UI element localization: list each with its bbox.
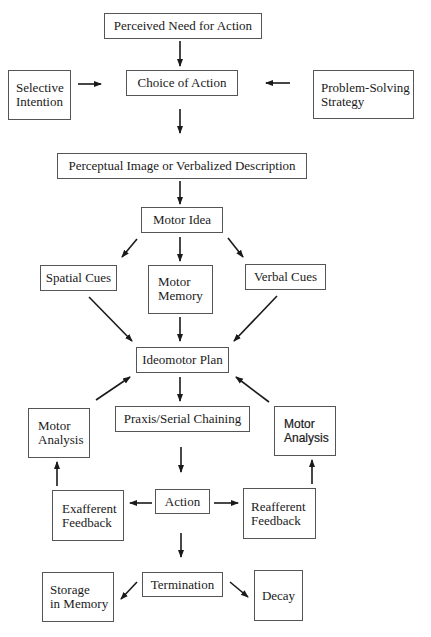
arrow-verbal-to-ideomotor: [234, 296, 277, 341]
node-label: Motor Analysis: [38, 419, 84, 447]
node-ideomotor-plan: Ideomotor Plan: [136, 347, 229, 373]
node-label: Problem-Solving Strategy: [321, 81, 410, 109]
node-choice-of-action: Choice of Action: [126, 70, 238, 96]
arrow-leftanalysis-to-ideomotor: [96, 377, 130, 400]
node-label: Spatial Cues: [46, 271, 111, 285]
node-label: Storage in Memory: [50, 583, 108, 611]
node-motor-analysis-left: Motor Analysis: [28, 408, 90, 458]
node-motor-memory: Motor Memory: [148, 265, 213, 314]
arrow-rightanalysis-to-ideomotor: [236, 377, 269, 402]
node-label: Motor Memory: [158, 275, 203, 303]
node-perceived-need: Perceived Need for Action: [104, 13, 262, 39]
node-label: Motor Analysis: [284, 417, 329, 445]
node-label: Perceived Need for Action: [114, 19, 252, 33]
node-label: Exafferent Feedback: [62, 502, 117, 530]
node-perceptual-image: Perceptual Image or Verbalized Descripti…: [57, 153, 307, 179]
node-praxis-serial-chaining: Praxis/Serial Chaining: [115, 406, 250, 432]
node-label: Praxis/Serial Chaining: [124, 412, 241, 426]
node-action: Action: [155, 489, 210, 514]
arrow-termination-to-storage: [121, 582, 137, 599]
arrow-termination-to-decay: [230, 582, 248, 597]
node-problem-solving-strategy: Problem-Solving Strategy: [313, 70, 414, 119]
node-reafferent-feedback: Reafferent Feedback: [243, 488, 316, 539]
node-label: Motor Idea: [153, 213, 211, 227]
node-label: Perceptual Image or Verbalized Descripti…: [68, 159, 295, 173]
node-label: Decay: [262, 589, 295, 603]
node-label: Reafferent Feedback: [251, 500, 306, 528]
arrow-motoridea-to-verbal: [228, 238, 243, 257]
node-decay: Decay: [254, 570, 303, 621]
node-spatial-cues: Spatial Cues: [40, 265, 117, 291]
node-storage-in-memory: Storage in Memory: [42, 572, 114, 622]
node-motor-idea: Motor Idea: [141, 207, 223, 233]
node-selective-intention: Selective Intention: [8, 70, 71, 120]
node-termination: Termination: [142, 572, 223, 597]
arrow-spatial-to-ideomotor: [89, 297, 132, 341]
node-motor-analysis-right: Motor Analysis: [274, 406, 336, 456]
node-label: Ideomotor Plan: [142, 353, 223, 367]
arrow-motoridea-to-spatial: [122, 239, 137, 257]
node-label: Choice of Action: [138, 76, 227, 90]
node-verbal-cues: Verbal Cues: [245, 264, 326, 290]
node-label: Selective Intention: [16, 81, 64, 109]
node-label: Verbal Cues: [254, 270, 317, 284]
node-exafferent-feedback: Exafferent Feedback: [52, 490, 124, 541]
node-label: Action: [165, 495, 200, 509]
node-label: Termination: [151, 578, 214, 592]
